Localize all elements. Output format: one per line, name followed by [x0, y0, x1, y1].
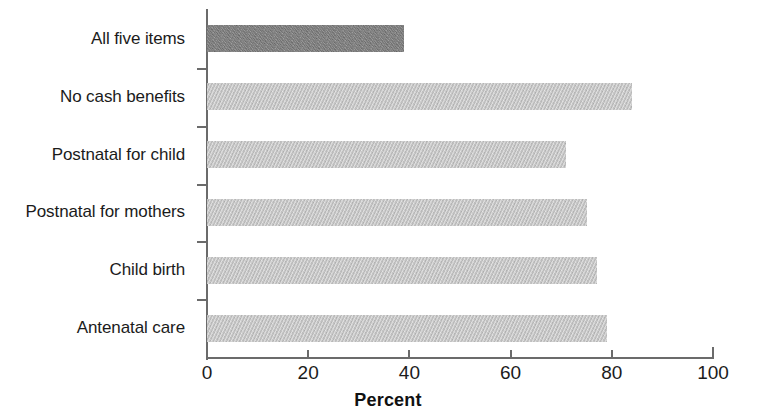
y-axis-label-postnatal-for-mothers: Postnatal for mothers: [26, 202, 185, 222]
y-axis-label-antenatal-care: Antenatal care: [77, 318, 185, 338]
x-axis-line: [206, 357, 714, 359]
x-axis-tick-label-80: 80: [582, 362, 642, 384]
y-axis-label-no-cash-benefits: No cash benefits: [60, 87, 185, 107]
y-axis-tick: [197, 299, 207, 301]
bar-child-birth: [207, 257, 597, 284]
bar-chart: All five itemsNo cash benefitsPostnatal …: [0, 0, 776, 415]
bar-antenatal-care: [207, 315, 607, 342]
x-axis-tick: [408, 350, 410, 359]
bar-postnatal-for-child: [207, 141, 566, 168]
y-axis-label-all-five-items: All five items: [91, 29, 185, 49]
bar-all-five-items: [207, 25, 404, 52]
y-axis-tick: [197, 184, 207, 186]
y-axis-label-child-birth: Child birth: [110, 260, 185, 280]
y-axis-tick: [197, 241, 207, 243]
bar-postnatal-for-mothers: [207, 199, 587, 226]
x-axis-tick: [611, 350, 613, 359]
x-axis-tick: [510, 350, 512, 359]
y-axis-label-postnatal-for-child: Postnatal for child: [52, 145, 185, 165]
x-axis-tick-label-20: 20: [278, 362, 338, 384]
x-axis-title: Percent: [0, 389, 776, 411]
bar-no-cash-benefits: [207, 83, 632, 110]
x-axis-zero-tick: [206, 346, 208, 360]
x-axis-tick: [307, 350, 309, 359]
y-axis-tick: [197, 126, 207, 128]
x-axis-tick-label-100: 100: [683, 362, 743, 384]
x-axis-tick-label-60: 60: [481, 362, 541, 384]
x-axis-tick-label-0: 0: [177, 362, 237, 384]
y-axis-tick: [197, 68, 207, 70]
x-axis-end-tick: [712, 347, 714, 359]
x-axis-tick-label-40: 40: [379, 362, 439, 384]
